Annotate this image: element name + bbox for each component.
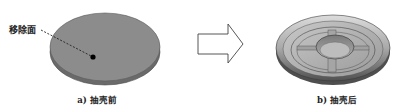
caption-after-shell: b) 抽壳后 — [317, 93, 357, 105]
shell-operation-figure: 移除面 a) 抽壳前 b) 抽壳后 — [0, 0, 394, 112]
shelled-dish-icon — [276, 15, 390, 85]
right-arrow-icon — [198, 24, 243, 63]
removal-face-label: 移除面 — [9, 23, 36, 36]
removal-point-icon — [90, 54, 95, 59]
solid-disk-icon — [50, 13, 160, 85]
caption-before-shell: a) 抽壳前 — [77, 93, 117, 105]
